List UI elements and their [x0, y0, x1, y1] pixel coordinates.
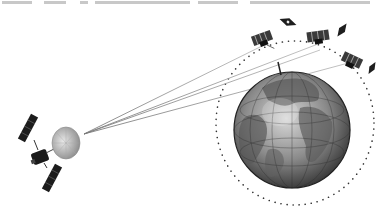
leo-satellite-1: [251, 30, 276, 55]
leo-satellite-2: [306, 30, 330, 46]
dish-antenna: [52, 127, 80, 159]
satellite-relay-illustration: [0, 0, 391, 210]
reflector-panel-1: [278, 15, 298, 29]
earth-globe: [234, 72, 350, 188]
reflector-panel-3: [366, 60, 378, 75]
leo-satellite-3: [340, 51, 364, 71]
reflector-panel-2: [335, 21, 350, 38]
